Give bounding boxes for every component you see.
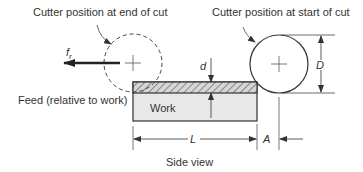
cutter-start-position xyxy=(250,35,308,93)
start-position-leader xyxy=(243,27,255,42)
approach-symbol: A xyxy=(262,133,270,145)
work-label: Work xyxy=(150,102,176,114)
end-position-label: Cutter position at end of cut xyxy=(33,6,168,18)
length-symbol: L xyxy=(190,133,196,145)
depth-symbol: d xyxy=(200,60,207,72)
end-position-leader xyxy=(97,25,111,44)
diameter-symbol: D xyxy=(316,59,324,71)
feed-label: Feed (relative to work) xyxy=(18,94,127,106)
cut-depth-hatch xyxy=(133,82,257,93)
milling-side-view-diagram: Work fr Cutter position at end of cut Cu… xyxy=(0,0,363,172)
feed-rate-symbol: fr xyxy=(66,46,72,61)
start-position-label: Cutter position at start of cut xyxy=(212,6,350,18)
workpiece: Work xyxy=(133,82,257,121)
caption: Side view xyxy=(166,156,213,168)
length-dimension: L xyxy=(134,133,256,145)
approach-dimension: A xyxy=(262,133,303,145)
